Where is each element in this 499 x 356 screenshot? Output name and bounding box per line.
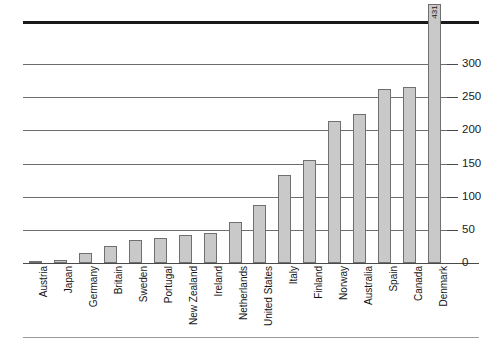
category-label-britain: Britain: [114, 266, 124, 294]
bar-australia[interactable]: [353, 114, 366, 263]
bar-slot: [403, 24, 416, 263]
y-tick-label-200: 200: [462, 125, 481, 137]
bar-slot: [179, 24, 192, 263]
category-label-united-states: United States: [264, 266, 274, 326]
bar-netherlands[interactable]: [229, 222, 242, 263]
y-tick-label-0: 0: [462, 257, 468, 269]
bar-finland[interactable]: [303, 160, 316, 263]
bar-japan[interactable]: [54, 260, 67, 263]
bar-slot: [154, 24, 167, 263]
bar-slot: [328, 24, 341, 263]
bar-slot: [204, 24, 217, 263]
y-tick-label-50: 50: [462, 224, 475, 236]
y-tick-mark-50: [447, 230, 458, 231]
y-tick-label-100: 100: [462, 191, 481, 203]
category-label-portugal: Portugal: [164, 266, 174, 303]
category-label-new-zealand: New Zealand: [189, 266, 199, 325]
bar-slot: [104, 24, 117, 263]
bar-canada[interactable]: [403, 87, 416, 263]
bar-value-label: 431: [431, 5, 439, 18]
bar-austria[interactable]: [29, 261, 42, 263]
category-label-finland: Finland: [314, 266, 324, 299]
y-tick-mark-0: [447, 263, 458, 264]
y-tick-label-150: 150: [462, 158, 481, 170]
bar-denmark[interactable]: 431: [428, 4, 441, 263]
bar-slot: [353, 24, 366, 263]
bar-italy[interactable]: [278, 175, 291, 263]
y-tick-mark-300: [447, 64, 458, 65]
y-tick-mark-100: [447, 197, 458, 198]
bar-britain[interactable]: [104, 246, 117, 263]
y-tick-mark-250: [447, 97, 458, 98]
category-label-japan: Japan: [64, 266, 74, 293]
bar-slot: [79, 24, 92, 263]
bar-spain[interactable]: [378, 89, 391, 263]
category-label-spain: Spain: [389, 266, 399, 292]
bar-slot: [378, 24, 391, 263]
y-tick-mark-150: [447, 164, 458, 165]
category-label-norway: Norway: [339, 266, 349, 300]
bar-slot: [129, 24, 142, 263]
bar-slot: 431: [428, 24, 441, 263]
bar-slot: [54, 24, 67, 263]
category-labels-group: AustriaJapanGermanyBritainSwedenPortugal…: [23, 266, 447, 354]
bottom-border-rule: [23, 337, 479, 338]
bar-sweden[interactable]: [129, 240, 142, 263]
category-label-austria: Austria: [39, 266, 49, 297]
category-label-germany: Germany: [89, 266, 99, 307]
bar-slot: [303, 24, 316, 263]
y-tick-label-250: 250: [462, 91, 481, 103]
bar-slot: [253, 24, 266, 263]
bar-norway[interactable]: [328, 121, 341, 263]
bar-germany[interactable]: [79, 253, 92, 263]
x-axis-baseline: [23, 263, 479, 264]
category-label-ireland: Ireland: [214, 266, 224, 297]
bar-slot: [229, 24, 242, 263]
bar-ireland[interactable]: [204, 233, 217, 264]
bar-portugal[interactable]: [154, 238, 167, 263]
bar-slot: [278, 24, 291, 263]
bar-new-zealand[interactable]: [179, 235, 192, 263]
bar-chart: 050100150200250300 431 AustriaJapanGerma…: [0, 0, 499, 356]
category-label-netherlands: Netherlands: [239, 266, 249, 320]
category-label-italy: Italy: [289, 266, 299, 284]
category-label-sweden: Sweden: [139, 266, 149, 302]
category-label-australia: Australia: [364, 266, 374, 305]
bar-slot: [29, 24, 42, 263]
bars-group: 431: [23, 24, 447, 263]
category-label-denmark: Denmark: [439, 266, 449, 307]
y-tick-label-300: 300: [462, 58, 481, 70]
bar-united-states[interactable]: [253, 205, 266, 263]
category-label-canada: Canada: [414, 266, 424, 301]
y-tick-mark-200: [447, 130, 458, 131]
